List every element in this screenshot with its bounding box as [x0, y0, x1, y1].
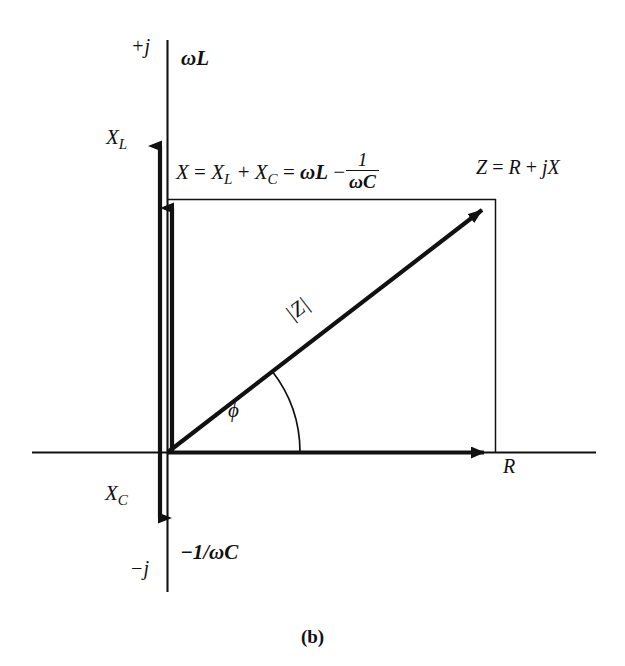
label-xl: XL	[106, 127, 127, 152]
axis-label-plus-j: +j	[131, 36, 150, 56]
z-vector-arrow	[168, 210, 482, 452]
phasor-diagram-canvas	[0, 0, 625, 666]
label-r: R	[503, 456, 515, 476]
label-omega-l: ωL	[181, 48, 209, 69]
figure-caption: (b)	[0, 626, 625, 648]
equation-reactance: X = XL + XC = ωL −1ωC	[176, 150, 380, 193]
label-phi-angle: ϕ	[228, 400, 239, 421]
fraction-one-over-omega-c: 1ωC	[346, 150, 379, 193]
axis-label-minus-j: −j	[130, 558, 149, 578]
equation-impedance: Z = R + jX	[476, 157, 560, 177]
label-xc: XC	[105, 483, 128, 508]
label-neg-one-over-omega-c: −1/ωC	[180, 542, 238, 563]
figure-container: +j ωL XL X = XL + XC = ωL −1ωC Z = R + j…	[0, 0, 625, 666]
phi-angle-arc	[272, 371, 300, 452]
